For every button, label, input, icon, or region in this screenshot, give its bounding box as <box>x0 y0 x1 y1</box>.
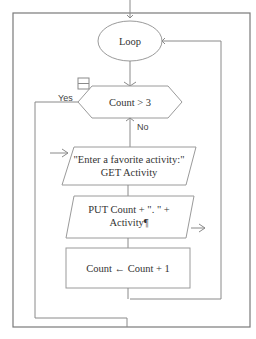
process-node[interactable]: Count ← Count + 1 <box>66 248 190 288</box>
output-node[interactable]: PUT Count + ". " + Activity¶ <box>66 196 194 238</box>
input-node[interactable]: "Enter a favorite activity:" GET Activit… <box>62 147 196 185</box>
decision-node[interactable]: Count > 3 <box>78 86 182 118</box>
minus-box-icon[interactable] <box>78 78 89 89</box>
no-label: No <box>137 122 149 132</box>
process-label: Count ← Count + 1 <box>86 263 170 274</box>
input-parallelogram <box>62 147 196 185</box>
output-line2: Activity¶ <box>109 217 148 228</box>
flowchart-canvas: Loop Count > 3 Yes No "Enter a favorite … <box>0 0 256 339</box>
decision-label: Count > 3 <box>109 97 151 108</box>
loop-node[interactable]: Loop <box>98 21 162 61</box>
output-line1: PUT Count + ". " + <box>88 204 170 215</box>
loop-label: Loop <box>119 36 141 47</box>
input-line1: "Enter a favorite activity:" <box>74 154 185 165</box>
input-line2: GET Activity <box>101 167 158 178</box>
